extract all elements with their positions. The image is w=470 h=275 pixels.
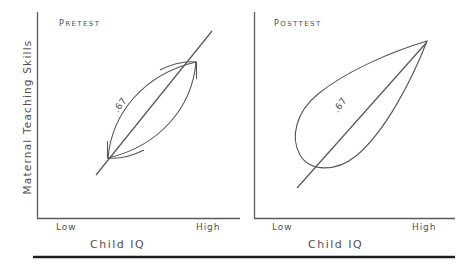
panel-title-posttest: POSTTEST xyxy=(274,16,322,29)
figure-container: Maternal Teaching Skills PRETEST POSTTES… xyxy=(0,0,470,275)
x-axis-title-pretest: Child IQ xyxy=(90,238,145,251)
figure-artwork xyxy=(0,0,470,275)
xtick-low-posttest: Low xyxy=(272,222,292,232)
panel-pretest-plot xyxy=(96,31,212,175)
posttest-regression-line xyxy=(297,42,427,188)
posttest-teardrop xyxy=(295,41,427,168)
panel-title-pretest: PRETEST xyxy=(59,16,100,29)
y-axis-title: Maternal Teaching Skills xyxy=(18,2,36,232)
panel-posttest-plot xyxy=(295,41,427,188)
xtick-high-posttest: High xyxy=(412,222,436,232)
x-axis-title-posttest: Child IQ xyxy=(308,238,363,251)
pretest-regression-line xyxy=(96,31,212,175)
xtick-low-pretest: Low xyxy=(56,222,76,232)
panel-pretest-axes xyxy=(37,12,240,219)
panel-posttest-axes xyxy=(254,12,455,219)
xtick-high-pretest: High xyxy=(196,222,220,232)
